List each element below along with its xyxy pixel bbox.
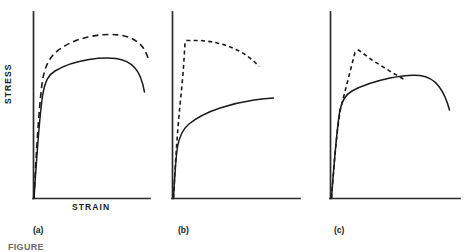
figure-caption-text: FIGURE: [8, 243, 44, 252]
panel-c-solid-curve: [332, 75, 450, 198]
panel-label-a: (a): [33, 226, 43, 235]
panel-b-solid-curve: [174, 98, 274, 198]
panel-b: [172, 12, 300, 199]
panel-c-dashed-curve: [332, 50, 407, 198]
panel-label-b: (b): [178, 226, 189, 235]
panel-c: [330, 12, 460, 199]
stress-strain-figure: STRESS STRAIN (a) (b) (c) FIGURE: [0, 0, 467, 252]
figure-canvas: [0, 0, 467, 252]
panel-a-solid-curve: [34, 58, 145, 198]
panel-label-c: (c): [334, 226, 344, 235]
panel-b-dashed-curve: [174, 41, 260, 199]
x-axis-label-strain: STRAIN: [72, 203, 110, 212]
panel-a: [33, 12, 150, 199]
figure-caption-strip: FIGURE: [0, 243, 467, 252]
y-axis-label-stress: STRESS: [4, 63, 13, 104]
